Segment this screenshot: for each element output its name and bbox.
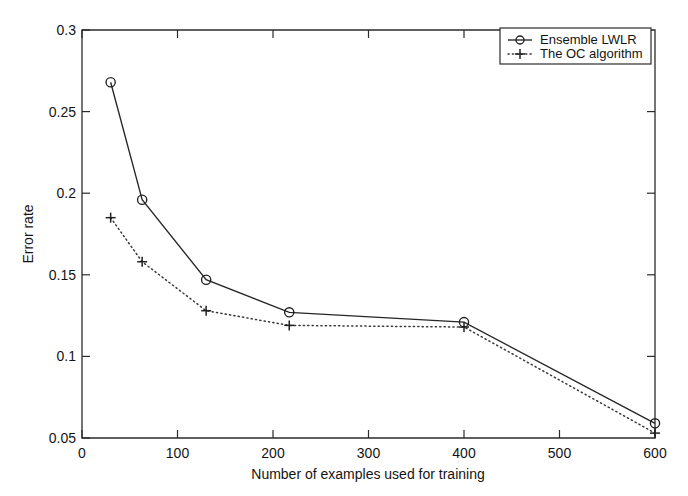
x-tick-labels: 0 100 200 300 400 500 600 — [78, 445, 667, 461]
y-tick-labels: 0.05 0.1 0.15 0.2 0.25 0.3 — [49, 22, 76, 446]
data-point-marker — [137, 257, 147, 267]
series-line-the-oc-algorithm — [111, 218, 655, 433]
y-tick-label-0.3: 0.3 — [57, 22, 77, 38]
y-tick-label-0.05: 0.05 — [49, 430, 76, 446]
data-point-marker — [650, 428, 660, 438]
y-tick-label-0.1: 0.1 — [57, 348, 77, 364]
x-axis-ticks — [82, 30, 655, 438]
x-tick-label-300: 300 — [357, 445, 381, 461]
y-tick-label-0.2: 0.2 — [57, 185, 77, 201]
x-tick-label-500: 500 — [548, 445, 572, 461]
x-tick-label-600: 600 — [643, 445, 667, 461]
legend: Ensemble LWLR The OC algorithm — [500, 28, 651, 64]
line-chart: 0 100 200 300 400 500 600 0.05 0.1 0.15 … — [0, 0, 688, 496]
x-tick-label-100: 100 — [166, 445, 190, 461]
y-axis-title: Error rate — [20, 204, 36, 263]
data-point-marker — [284, 320, 294, 330]
legend-label-ensemble-lwlr: Ensemble LWLR — [540, 32, 637, 47]
series-line-ensemble-lwlr — [111, 82, 655, 423]
x-tick-label-200: 200 — [261, 445, 285, 461]
series-markers-ensemble-lwlr — [106, 78, 660, 428]
y-tick-label-0.15: 0.15 — [49, 267, 76, 283]
x-axis-title: Number of examples used for training — [251, 466, 484, 482]
y-tick-label-0.25: 0.25 — [49, 104, 76, 120]
series-markers-the-oc-algorithm — [106, 213, 660, 438]
data-point-marker — [106, 213, 116, 223]
data-point-marker — [201, 306, 211, 316]
figure-panel: 0 100 200 300 400 500 600 0.05 0.1 0.15 … — [0, 0, 688, 496]
legend-label-the-oc-algorithm: The OC algorithm — [540, 46, 643, 61]
plot-frame — [82, 30, 655, 438]
plot-border — [82, 30, 655, 438]
y-axis-ticks — [82, 30, 655, 438]
x-tick-label-400: 400 — [452, 445, 476, 461]
x-tick-label-0: 0 — [78, 445, 86, 461]
